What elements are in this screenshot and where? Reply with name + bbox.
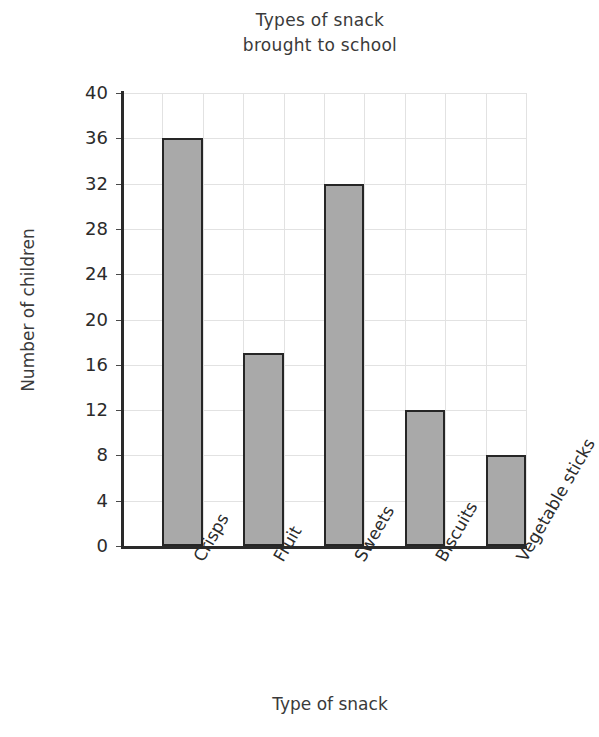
y-tick-label: 40: [62, 84, 108, 102]
y-tick-label: 8: [62, 446, 108, 464]
gridline-vertical: [364, 93, 365, 546]
chart-title-line-1: Types of snack: [256, 10, 385, 30]
y-axis-line: [121, 91, 124, 549]
y-tick-label: 12: [62, 401, 108, 419]
y-tick-label: 36: [62, 129, 108, 147]
bar-fruit: [243, 353, 283, 546]
bar-biscuits: [405, 410, 445, 546]
y-axis-title: Number of children: [18, 200, 38, 420]
y-tick-label: 16: [62, 356, 108, 374]
gridline-vertical: [203, 93, 204, 546]
y-tick-label: 4: [62, 492, 108, 510]
chart-title-line-2: brought to school: [243, 35, 397, 55]
gridline-vertical: [445, 93, 446, 546]
gridline-vertical: [526, 93, 527, 546]
y-tick-label: 0: [62, 537, 108, 555]
plot-area: [122, 93, 526, 546]
y-tick-label: 28: [62, 220, 108, 238]
bar-sweets: [324, 184, 364, 546]
x-axis-title: Type of snack: [150, 694, 510, 714]
bar-crisps: [162, 138, 202, 546]
x-axis-line: [121, 546, 527, 549]
chart-title: Types of snackbrought to school: [120, 8, 520, 58]
y-tick-label: 20: [62, 311, 108, 329]
gridline-vertical: [284, 93, 285, 546]
y-tick-label: 32: [62, 175, 108, 193]
y-tick-label: 24: [62, 265, 108, 283]
bar-vegetable-sticks: [486, 455, 526, 546]
